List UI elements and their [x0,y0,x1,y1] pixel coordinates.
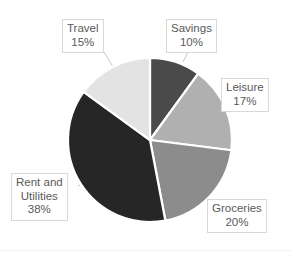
slice-label-rent-name-line2: Utilities [16,190,63,204]
slice-label-savings: Savings 10% [166,19,217,53]
slice-label-rent-value: 38% [16,203,63,217]
slice-label-rent-and-utilities: Rent and Utilities 38% [11,173,68,221]
slice-label-groceries-value: 20% [212,216,262,230]
pie-chart-figure: Savings 10% Leisure 17% Groceries 20% Re… [0,0,291,256]
slice-label-leisure-value: 17% [226,95,264,109]
slice-label-travel-value: 15% [67,36,99,50]
slice-label-savings-value: 10% [171,36,212,50]
slice-label-leisure: Leisure 17% [221,78,269,112]
slice-label-rent-name-line1: Rent and [16,176,63,190]
slice-label-groceries: Groceries 20% [207,199,267,233]
slice-label-travel: Travel 15% [62,19,104,53]
slice-label-leisure-name: Leisure [226,81,264,95]
bottom-divider [0,250,291,251]
pie-slices [68,58,232,222]
slice-label-savings-name: Savings [171,22,212,36]
slice-label-travel-name: Travel [67,22,99,36]
slice-label-groceries-name: Groceries [212,202,262,216]
